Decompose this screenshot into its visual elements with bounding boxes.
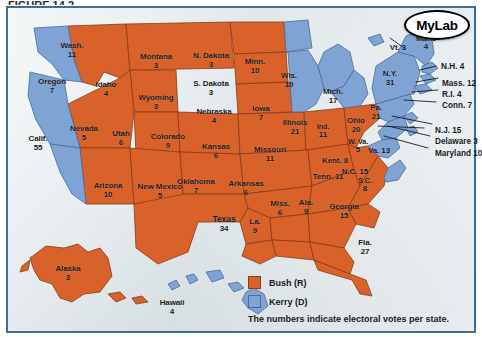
state-votes: 5 xyxy=(138,191,183,200)
state-name: Ohio xyxy=(347,116,365,125)
state-name: Hawaii xyxy=(160,298,185,307)
state-label-montana: Montana 3 xyxy=(140,53,172,70)
state-votes: 34 xyxy=(212,224,235,233)
state-votes: 31 xyxy=(383,78,397,87)
legend-item-bush: Bush (R) xyxy=(248,276,473,289)
state-name: Alaska xyxy=(55,264,80,273)
state-label-minn: Minn. 10 xyxy=(245,58,265,75)
state-votes: 11 xyxy=(254,154,286,163)
state-name: Oklahoma xyxy=(177,177,215,186)
state-label-arizona: Arizona 10 xyxy=(94,182,123,199)
state-name: Missouri xyxy=(254,145,286,154)
state-votes: 21 xyxy=(283,127,308,136)
state-name: Arizona xyxy=(94,181,123,190)
state-label-s-dakota: S. Dakota 3 xyxy=(193,80,229,97)
state-name: Fla. xyxy=(358,238,371,247)
state-label-nc: N.C. 15 xyxy=(342,167,368,176)
state-votes: 6 xyxy=(202,151,230,160)
state-label-va: Va. 13 xyxy=(368,146,390,155)
state-label-ind: Ind. 11 xyxy=(317,123,329,138)
state-name: Wash. xyxy=(61,41,84,50)
state-label-texas: Texas 34 xyxy=(212,215,235,233)
state-votes: 15 xyxy=(329,211,359,220)
state-name: Nebraska xyxy=(196,107,231,116)
map-frame: Wash. 11 Oregon 7 Calif. 55 Nevada 5 Ida… xyxy=(6,6,476,333)
state-label-kansas: Kansas 6 xyxy=(202,143,230,160)
state-name: Pa. xyxy=(370,103,382,112)
state-name: New Mexico xyxy=(138,182,183,191)
state-votes: 3 xyxy=(193,60,229,69)
state-label-illinois: Illinois 21 xyxy=(283,119,308,136)
state-votes: 17 xyxy=(323,96,343,105)
state-name: Utah xyxy=(112,129,129,138)
state-label-utah: Utah 6 xyxy=(112,130,129,147)
state-name: Georgia xyxy=(329,202,359,211)
state-votes: 8 xyxy=(358,185,372,193)
state-label-oklahoma: Oklahoma 7 xyxy=(177,178,215,195)
state-label-mich: Mich. 17 xyxy=(323,88,343,105)
state-votes: 7 xyxy=(177,186,215,195)
state-votes: 27 xyxy=(358,247,371,256)
state-votes: 5 xyxy=(70,133,98,142)
state-votes: 9 xyxy=(299,207,313,216)
state-votes: 6 xyxy=(228,188,263,197)
state-label-calif: Calif. 55 xyxy=(29,135,48,152)
state-callout-ri: R.I. 4 xyxy=(442,90,462,99)
state-name: Arkansas xyxy=(228,179,263,188)
state-label-alaska: Alaska 3 xyxy=(55,265,80,282)
mylab-badge[interactable]: MyLab xyxy=(404,10,470,40)
state-callout-mass: Mass. 12 xyxy=(442,79,476,88)
state-votes: 11 xyxy=(61,50,84,59)
map-legend: Bush (R) Kerry (D) The numbers indicate … xyxy=(248,276,473,324)
state-name: Oregon xyxy=(38,77,66,86)
state-name: La. xyxy=(249,217,260,226)
legend-swatch-bush xyxy=(248,276,261,289)
state-name: Montana xyxy=(140,52,172,61)
state-label-nevada: Nevada 5 xyxy=(70,125,98,142)
state-name: Colorado xyxy=(151,132,185,141)
state-name: Wis. xyxy=(281,71,297,80)
state-name: Calif. xyxy=(29,134,48,143)
state-name: Minn. xyxy=(245,57,265,66)
state-name: Illinois xyxy=(283,118,308,127)
state-votes: 7 xyxy=(38,86,66,95)
state-label-arkansas: Arkansas 6 xyxy=(228,180,263,197)
state-votes: 4 xyxy=(96,89,117,98)
state-label-w-va: W. Va. 5 xyxy=(348,138,368,153)
state-votes: 10 xyxy=(281,80,297,89)
state-callout-nj: N.J. 15 xyxy=(435,126,461,135)
state-name: Idaho xyxy=(96,80,117,89)
state-name: N.Y. xyxy=(383,69,397,78)
state-votes: 20 xyxy=(347,125,365,134)
state-votes: 10 xyxy=(94,190,123,199)
legend-label-bush: Bush (R) xyxy=(269,278,307,288)
state-callout-nh: N.H. 4 xyxy=(441,62,464,71)
state-votes: 11 xyxy=(317,131,329,139)
legend-swatch-kerry xyxy=(248,295,261,308)
state-label-n-dakota: N. Dakota 3 xyxy=(193,52,229,69)
state-label-la: La. 9 xyxy=(249,218,260,235)
state-votes: 7 xyxy=(252,113,269,122)
state-name: Miss. xyxy=(270,199,290,208)
state-label-vt: Vt. 3 xyxy=(390,43,406,52)
state-label-ny: N.Y. 31 xyxy=(383,70,397,87)
state-label-wash: Wash. 11 xyxy=(61,42,84,59)
state-votes: 3 xyxy=(140,61,172,70)
state-label-ala: Ala. 9 xyxy=(299,199,313,216)
mylab-label: MyLab xyxy=(416,18,457,33)
state-label-kent: Kent. 8 xyxy=(322,156,348,165)
state-label-idaho: Idaho 4 xyxy=(96,81,117,98)
state-label-new-mexico: New Mexico 5 xyxy=(138,183,183,200)
state-name: Texas xyxy=(212,214,235,224)
state-label-wyoming: Wyoming 3 xyxy=(138,94,173,111)
state-votes: 4 xyxy=(416,43,436,51)
state-votes: 3 xyxy=(55,273,80,282)
state-label-iowa: Iowa 7 xyxy=(252,105,269,122)
state-label-nebraska: Nebraska 4 xyxy=(196,108,231,125)
state-label-pa: Pa. 21 xyxy=(370,104,382,121)
state-label-fla: Fla. 27 xyxy=(358,239,371,256)
state-votes: 4 xyxy=(196,116,231,125)
state-votes: 21 xyxy=(370,112,382,121)
state-votes: 3 xyxy=(138,102,173,111)
state-callout-conn: Conn. 7 xyxy=(442,101,472,110)
